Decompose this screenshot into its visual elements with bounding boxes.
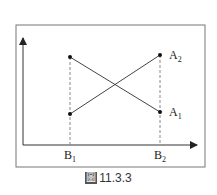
- caption-prefix: 圖: [85, 172, 97, 184]
- label-a1: A1: [169, 105, 182, 121]
- point-a1-b2: [158, 110, 162, 114]
- label-a2: A2: [169, 48, 182, 64]
- point-a2-b2: [158, 53, 162, 57]
- figure-frame: [16, 25, 205, 167]
- line-a2: [70, 55, 160, 114]
- point-a2-b1: [68, 112, 72, 116]
- interaction-diagram: A2 A1 B1 B2: [0, 0, 217, 195]
- figure-caption: 圖11.3.3: [0, 171, 217, 185]
- label-b2: B2: [154, 148, 166, 164]
- label-b1: B1: [64, 148, 76, 164]
- caption-number: 11.3.3: [99, 171, 131, 185]
- point-a1-b1: [68, 55, 72, 59]
